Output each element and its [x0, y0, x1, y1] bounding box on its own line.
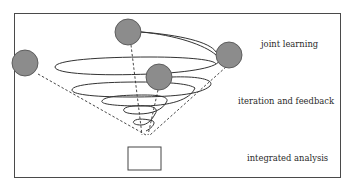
spiral-top-arc: [141, 32, 216, 52]
dashed-connector-top: [131, 45, 142, 135]
label-iteration-feedback: iteration and feedback: [238, 96, 334, 106]
node-top: [115, 19, 141, 45]
label-integrated-analysis: integrated analysis: [247, 153, 328, 163]
analysis-box: [128, 147, 161, 170]
node-center: [146, 64, 172, 90]
node-right: [216, 42, 242, 68]
dashed-connector-left: [38, 74, 146, 135]
label-joint-learning: joint learning: [261, 39, 318, 49]
spiral-ring-4: [124, 101, 167, 114]
spiral-ring-2: [72, 77, 211, 97]
node-left: [12, 50, 38, 76]
